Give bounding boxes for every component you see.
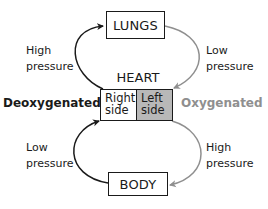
heart-node: Right side Left side [100,89,173,121]
arrow-heart-to-body [170,121,201,185]
label-top-right: Low pressure [206,43,254,75]
heart-title: HEART [108,70,168,85]
label-top-left-line1: High [26,43,74,59]
label-bottom-left-line1: Low [26,140,74,156]
lungs-label: LUNGS [113,18,158,33]
arrow-body-to-heart [74,121,108,183]
label-top-left-line2: pressure [26,59,74,75]
label-bottom-right-line2: pressure [206,156,254,172]
heart-left-line2: side [141,104,172,116]
deoxygenated-label: Deoxygenated [3,96,101,110]
label-top-right-line1: Low [206,43,254,59]
body-node: BODY [108,172,168,196]
arrow-heart-to-lungs [75,26,103,89]
arrow-lungs-to-heart [165,26,199,88]
label-bottom-left: Low pressure [26,140,74,172]
body-label: BODY [120,177,157,192]
label-bottom-right: High pressure [206,140,254,172]
label-top-left: High pressure [26,43,74,75]
heart-right-line2: side [105,104,136,116]
lungs-node: LUNGS [106,11,165,39]
label-bottom-right-line1: High [206,140,254,156]
heart-right-side: Right side [101,90,137,120]
label-bottom-left-line2: pressure [26,156,74,172]
oxygenated-label: Oxygenated [181,96,263,110]
label-top-right-line2: pressure [206,59,254,75]
heart-left-side: Left side [137,90,172,120]
